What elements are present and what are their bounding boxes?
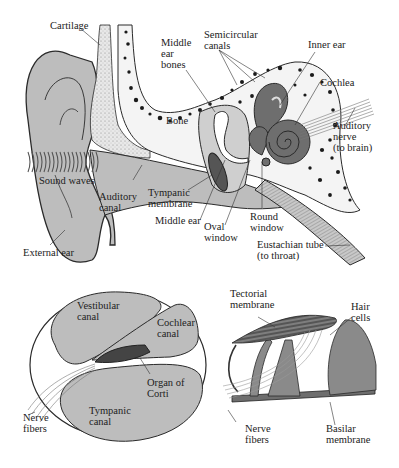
label-eustachian-tube: Eustachian tube (to throat) <box>257 239 324 261</box>
support-cells <box>328 320 376 395</box>
label-sound-waves: Sound waves <box>39 175 95 186</box>
label-middle-ear: Middle ear <box>155 215 201 226</box>
label-vestibular-canal: Vestibular canal <box>77 300 120 322</box>
label-auditory-nerve: Auditory nerve (to brain) <box>333 120 372 153</box>
tympanic-canal-shape <box>60 364 202 441</box>
label-middle-ear-bones: Middle ear bones <box>161 37 191 70</box>
label-oval-window: Oval window <box>204 221 238 243</box>
label-round-window: Round window <box>250 211 284 233</box>
label-auditory-canal: Auditory canal <box>99 191 137 213</box>
label-cartilage: Cartilage <box>50 20 88 31</box>
label-semicircular-canals: Semicircular canals <box>204 29 258 51</box>
label-inner-ear: Inner ear <box>308 39 346 50</box>
ear-anatomy-diagram <box>0 0 399 468</box>
label-bone: Bone <box>166 115 188 126</box>
label-external-ear: External ear <box>23 247 74 258</box>
tectorial-membrane-shape <box>232 315 337 343</box>
label-organ-of-corti: Organ of Corti <box>147 377 184 399</box>
label-tectorial-membrane: Tectorial membrane <box>230 288 274 310</box>
label-tympanic-membrane: Tympanic membrane <box>148 187 192 209</box>
label-tympanic-canal: Tympanic canal <box>89 405 131 427</box>
label-nerve-fibers-right: Nerve fibers <box>245 423 271 445</box>
label-hair-cells: Hair cells <box>351 301 370 323</box>
label-cochlea: Cochlea <box>320 77 354 88</box>
label-nerve-fibers-left: Nerve fibers <box>23 412 49 434</box>
organ-of-corti-detail <box>223 315 376 425</box>
label-cochlear-canal: Cochlear canal <box>157 317 195 339</box>
label-basilar-membrane: Basilar membrane <box>326 423 370 445</box>
